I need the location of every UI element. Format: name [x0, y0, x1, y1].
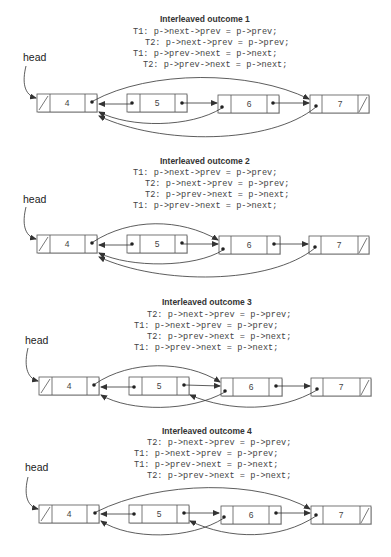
node-value: 7	[337, 240, 342, 250]
node-value: 4	[67, 509, 72, 519]
node-value: 4	[65, 98, 70, 108]
node-value: 6	[247, 99, 252, 109]
head-pointer-arrow	[26, 477, 38, 509]
node-value: 6	[249, 382, 254, 392]
outcome-1-diagram: 4 5 6 7	[24, 66, 370, 137]
outcome-3-diagram: 4 5 6 7	[26, 348, 372, 407]
node-value: 5	[155, 98, 160, 108]
head-pointer-arrow	[26, 348, 38, 381]
node-value: 6	[249, 510, 254, 520]
outcome-4-diagram: 4 5 6 7	[26, 477, 372, 535]
node-value: 5	[157, 509, 162, 519]
node-value: 7	[339, 382, 344, 392]
linked-list-diagrams: 4 5 6 7	[0, 0, 391, 557]
node-value: 7	[338, 99, 343, 109]
node-value: 5	[157, 381, 162, 391]
node-value: 7	[339, 510, 344, 520]
node-value: 5	[155, 239, 160, 249]
node-value: 4	[67, 381, 72, 391]
head-pointer-arrow	[24, 207, 36, 239]
node-value: 4	[65, 239, 70, 249]
head-pointer-arrow	[24, 66, 36, 98]
outcome-2-diagram: 4 5 6 7	[24, 207, 370, 277]
node-value: 6	[247, 240, 252, 250]
